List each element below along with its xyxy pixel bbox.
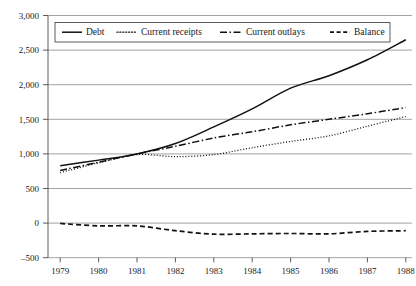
y-tick-label-1500: 1,500 [19, 115, 40, 125]
y-tick-label-500: 500 [26, 184, 40, 194]
y-tick-label-2500: 2,500 [19, 45, 40, 55]
x-tick-label-1983: 1983 [205, 266, 224, 276]
y-tick-label-minus500: –500 [20, 253, 40, 263]
y-tick-label-3000: 3,000 [19, 11, 40, 21]
chart-canvas: 3,000 2,500 2,000 1,500 1,000 500 0 –500… [0, 0, 416, 286]
x-tick-label-1987: 1987 [358, 266, 377, 276]
line-chart: 3,000 2,500 2,000 1,500 1,000 500 0 –500… [0, 0, 416, 286]
y-tick-labels: 3,000 2,500 2,000 1,500 1,000 500 0 –500 [19, 11, 40, 263]
x-tick-label-1985: 1985 [282, 266, 301, 276]
x-tick-label-1979: 1979 [51, 266, 70, 276]
legend-label-debt: Debt [86, 27, 105, 37]
x-tick-label-1988: 1988 [397, 266, 416, 276]
legend-label-current-outlays: Current outlays [246, 27, 305, 37]
y-tick-label-2000: 2,000 [19, 80, 40, 90]
series-line-debt [60, 40, 406, 166]
x-tick-label-1980: 1980 [90, 266, 109, 276]
series-line-balance [60, 223, 406, 234]
x-axis [60, 258, 406, 263]
x-tick-labels: 1979 1980 1981 1982 1983 1984 1985 1986 … [51, 266, 415, 276]
x-tick-label-1982: 1982 [166, 266, 184, 276]
series-line-current-receipts [60, 117, 406, 173]
legend-label-current-receipts: Current receipts [141, 27, 202, 37]
y-axis [43, 16, 48, 258]
y-tick-label-1000: 1,000 [19, 149, 40, 159]
gridlines [48, 16, 412, 258]
x-tick-label-1984: 1984 [243, 266, 262, 276]
legend-label-balance: Balance [354, 27, 385, 37]
y-tick-label-0: 0 [35, 218, 40, 228]
x-tick-label-1981: 1981 [128, 266, 146, 276]
series-line-current-outlays [60, 108, 406, 171]
chart-legend: Debt Current receipts Current outlays Ba… [55, 23, 390, 43]
x-tick-label-1986: 1986 [320, 266, 339, 276]
series-group [60, 40, 406, 235]
